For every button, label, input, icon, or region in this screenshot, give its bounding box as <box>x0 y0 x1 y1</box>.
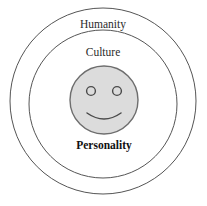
ring-label-culture: Culture <box>86 46 121 58</box>
diagram-container: Humanity Culture Personality <box>0 0 207 206</box>
smiley-left-eye-icon <box>87 87 96 96</box>
ring-label-humanity: Humanity <box>80 18 126 31</box>
concentric-circles-diagram: Humanity Culture Personality <box>0 0 207 206</box>
ring-personality-circle <box>70 66 138 134</box>
ring-label-personality: Personality <box>76 139 132 152</box>
smiley-right-eye-icon <box>113 87 122 96</box>
